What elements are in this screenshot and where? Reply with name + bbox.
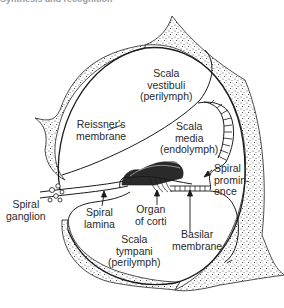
label-scala-vestibuli: Scala vestibuli (perilymph) <box>140 68 193 103</box>
spiral-ganglion-cells <box>48 184 64 202</box>
label-scala-media: Scala media (endolymph) <box>160 121 218 156</box>
label-line: Scala <box>140 68 193 80</box>
label-line: lamina <box>84 219 115 231</box>
label-line: Reissner's <box>76 119 126 131</box>
label-line: Basilar <box>172 229 222 241</box>
label-line: Scala <box>160 121 218 133</box>
label-line: Spiral <box>214 163 250 175</box>
label-basilar-membrane: Basilar membrane <box>172 229 222 252</box>
label-line: (perilymph) <box>108 257 161 269</box>
label-line: membrane <box>172 241 222 253</box>
label-scala-tympani: Scala tympani (perilymph) <box>108 234 161 269</box>
cochlea-diagram: Synthesis and recognition <box>0 0 284 308</box>
label-spiral-prominence: Spiral promin- ence <box>214 163 250 198</box>
label-line: Spiral <box>84 207 115 219</box>
label-line: Spiral <box>6 199 46 211</box>
label-organ-of-corti: Organ of corti <box>135 204 167 227</box>
label-spiral-ganglion: Spiral ganglion <box>6 199 46 222</box>
label-line: (perilymph) <box>140 91 193 103</box>
label-line: ganglion <box>6 211 46 223</box>
label-reissners-membrane: Reissner's membrane <box>76 119 126 142</box>
bony-wall-left <box>35 45 145 180</box>
label-line: Scala <box>108 234 161 246</box>
label-line: of corti <box>135 216 167 228</box>
label-spiral-lamina: Spiral lamina <box>84 207 115 230</box>
label-line: Organ <box>135 204 167 216</box>
label-line: ence <box>214 186 250 198</box>
organ-of-corti-shape <box>120 161 210 192</box>
label-line: (endolymph) <box>160 144 218 156</box>
label-line: membrane <box>76 131 126 143</box>
